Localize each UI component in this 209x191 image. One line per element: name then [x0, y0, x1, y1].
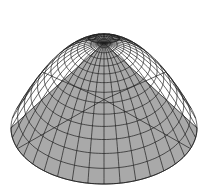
- dome-mesh-figure: [0, 0, 209, 191]
